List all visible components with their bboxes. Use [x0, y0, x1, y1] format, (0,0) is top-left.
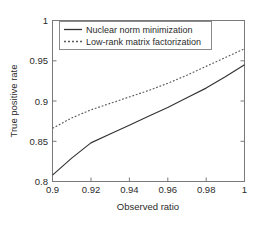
y-tick-label-1: 0.85 [30, 136, 49, 147]
chart-figure: 0.9 0.92 0.94 0.96 0.98 1 0.8 0.85 0.9 0… [0, 0, 264, 230]
x-axis-title: Observed ratio [117, 201, 179, 212]
y-tick-label-3: 0.95 [30, 55, 49, 66]
x-tick-label-2: 0.94 [120, 184, 139, 195]
y-axis-title: True positive rate [8, 64, 19, 137]
x-tick-label-3: 0.96 [159, 184, 178, 195]
y-tick-label-4: 1 [43, 15, 48, 26]
legend-label-0: Nuclear norm minimization [86, 25, 193, 35]
line-chart: 0.9 0.92 0.94 0.96 0.98 1 0.8 0.85 0.9 0… [0, 0, 264, 230]
legend-label-1: Low-rank matrix factorization [86, 37, 201, 47]
y-tick-label-2: 0.9 [35, 96, 48, 107]
x-tick-label-1: 0.92 [82, 184, 101, 195]
legend[interactable]: Nuclear norm minimization Low-rank matri… [60, 22, 212, 50]
x-tick-label-5: 1 [242, 184, 247, 195]
y-tick-label-0: 0.8 [35, 176, 48, 187]
x-tick-label-4: 0.98 [197, 184, 216, 195]
